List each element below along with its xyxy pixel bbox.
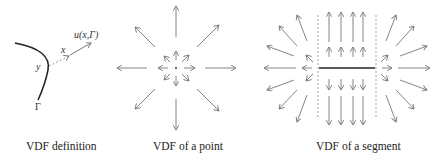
label-curve-gamma: Γ: [35, 101, 41, 112]
curve-gamma: [15, 43, 48, 100]
label-foot-point-y: y: [36, 61, 40, 72]
caption-vdf-definition: VDF definition: [26, 140, 97, 152]
caption-vdf-segment: VDF of a segment: [316, 140, 401, 152]
label-vector-u: u(x,Γ): [74, 29, 98, 40]
vector-u-arrow: [70, 43, 91, 55]
panel-segment: [264, 12, 430, 125]
point-source: [175, 67, 177, 69]
panel-definition: [15, 43, 91, 100]
vdf-diagram: [0, 0, 442, 157]
label-query-point-x: x: [61, 44, 65, 55]
panel-point: [117, 6, 236, 130]
distance-dotted-line: [49, 56, 69, 66]
caption-vdf-point: VDF of a point: [153, 140, 223, 152]
